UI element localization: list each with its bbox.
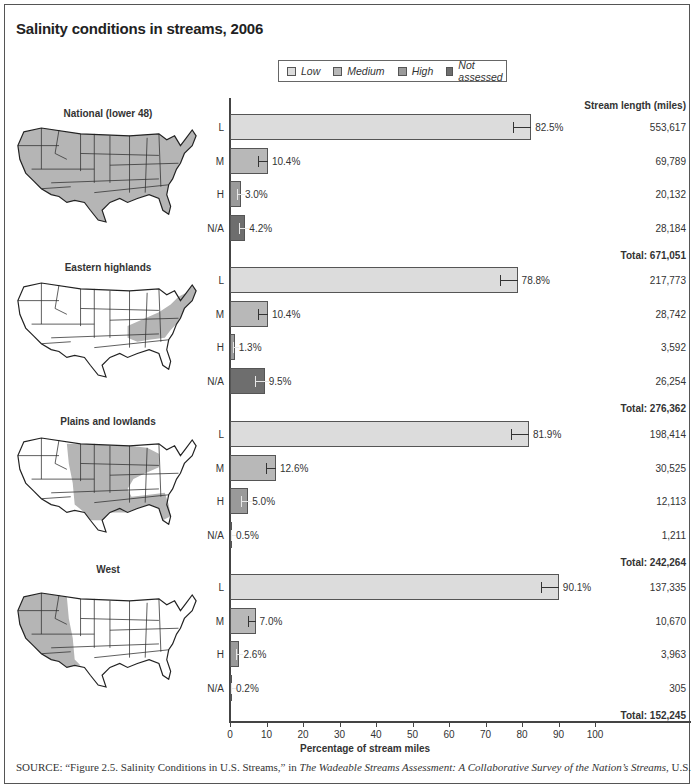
row-label: N/A — [194, 683, 224, 694]
stream-length-total: Total: 242,264 — [621, 557, 686, 568]
chart-title: Salinity conditions in streams, 2006 — [16, 20, 263, 37]
error-bar-cap — [237, 189, 238, 200]
percent-label: 9.5% — [269, 376, 292, 387]
percent-label: 3.0% — [245, 189, 268, 200]
us-map-west — [12, 585, 202, 695]
error-bar — [258, 314, 268, 315]
error-bar — [266, 468, 276, 469]
row-label: M — [194, 156, 224, 167]
row-label: L — [194, 429, 224, 440]
bar-l — [230, 267, 518, 293]
error-bar — [236, 654, 244, 655]
stream-length-value: 30,525 — [655, 463, 686, 474]
percent-label: 0.2% — [236, 683, 259, 694]
bar-l — [230, 574, 559, 600]
legend-swatch — [333, 67, 342, 76]
x-tick — [595, 722, 596, 727]
legend-label: Medium — [347, 65, 384, 77]
stream-length-header: Stream length (miles) — [584, 100, 686, 111]
error-bar-cap — [513, 122, 514, 133]
x-tick — [559, 722, 560, 727]
error-bar-cap — [255, 376, 256, 387]
x-tick — [449, 722, 450, 727]
error-bar — [255, 381, 269, 382]
x-tick-label: 60 — [443, 729, 454, 740]
percent-label: 1.3% — [239, 342, 262, 353]
legend-swatch — [287, 67, 296, 76]
us-map-eastern-highlands — [12, 275, 202, 385]
stream-length-total: Total: 671,051 — [621, 250, 686, 261]
error-bar — [258, 161, 268, 162]
us-map-plains-and-lowlands — [12, 430, 202, 540]
x-tick — [376, 722, 377, 727]
error-bar-cap — [231, 683, 232, 694]
x-tick — [413, 722, 414, 727]
percent-label: 10.4% — [272, 156, 300, 167]
x-tick-label: 90 — [553, 729, 564, 740]
stream-length-value: 10,670 — [655, 616, 686, 627]
legend-swatch — [446, 67, 453, 76]
x-axis — [229, 721, 691, 723]
error-bar-cap — [541, 582, 542, 593]
stream-length-total: Total: 276,362 — [621, 403, 686, 414]
bar-l — [230, 114, 531, 140]
x-tick-label: 80 — [516, 729, 527, 740]
row-label: M — [194, 463, 224, 474]
x-tick — [340, 722, 341, 727]
error-bar-cap — [233, 342, 234, 353]
x-tick — [522, 722, 523, 727]
percent-label: 10.4% — [272, 309, 300, 320]
region-title: National (lower 48) — [64, 108, 153, 119]
error-bar-cap — [511, 429, 512, 440]
percent-label: 7.0% — [260, 616, 283, 627]
x-axis-title: Percentage of stream miles — [300, 743, 430, 754]
x-tick — [486, 722, 487, 727]
x-tick-label: 10 — [261, 729, 272, 740]
percent-label: 90.1% — [563, 582, 591, 593]
row-label: H — [194, 496, 224, 507]
x-tick-label: 40 — [370, 729, 381, 740]
row-label: L — [194, 122, 224, 133]
x-tick-label: 50 — [407, 729, 418, 740]
stream-length-total: Total: 152,245 — [621, 710, 686, 721]
error-bar-cap — [241, 496, 242, 507]
stream-length-value: 28,742 — [655, 309, 686, 320]
error-bar — [541, 587, 559, 588]
stream-length-value: 305 — [669, 683, 686, 694]
percent-label: 82.5% — [535, 122, 563, 133]
error-bar — [248, 621, 256, 622]
stream-length-value: 1,211 — [662, 530, 686, 541]
x-tick — [267, 722, 268, 727]
percent-label: 4.2% — [249, 223, 272, 234]
error-bar-cap — [500, 275, 501, 286]
error-bar-cap — [258, 156, 259, 167]
stream-length-value: 3,592 — [661, 342, 686, 353]
percent-label: 5.0% — [252, 496, 275, 507]
row-label: M — [194, 616, 224, 627]
percent-label: 78.8% — [522, 275, 550, 286]
region-title: Eastern highlands — [65, 262, 152, 273]
error-bar — [511, 434, 529, 435]
stream-length-value: 69,789 — [655, 156, 686, 167]
x-tick-label: 30 — [334, 729, 345, 740]
stream-length-value: 12,113 — [656, 496, 686, 507]
stream-length-value: 198,414 — [650, 429, 686, 440]
percent-label: 0.5% — [236, 530, 259, 541]
row-label: M — [194, 309, 224, 320]
stream-length-value: 26,254 — [655, 376, 686, 387]
x-tick-label: 0 — [227, 729, 233, 740]
legend-label: High — [412, 65, 434, 77]
error-bar-cap — [248, 616, 249, 627]
legend-item-medium: Medium — [333, 65, 384, 77]
bar-l — [230, 421, 529, 447]
error-bar — [237, 194, 245, 195]
error-bar — [239, 228, 249, 229]
legend-label: Low — [301, 65, 320, 77]
row-label: H — [194, 342, 224, 353]
region-title: West — [96, 564, 120, 575]
x-tick — [303, 722, 304, 727]
error-bar — [500, 280, 518, 281]
error-bar-cap — [258, 309, 259, 320]
percent-label: 2.6% — [243, 649, 266, 660]
error-bar — [241, 501, 252, 502]
